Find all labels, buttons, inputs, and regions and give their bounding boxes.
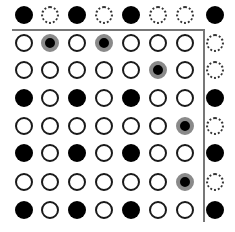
solid-outline-dot-icon [149, 201, 167, 219]
solid-outline-dot-icon [95, 173, 113, 191]
solid-outline-dot-icon [68, 173, 86, 191]
filled-black-dot-icon [206, 6, 224, 24]
solid-outline-dot-icon [149, 117, 167, 135]
solid-outline-dot-icon [149, 173, 167, 191]
filled-black-dot-icon [122, 89, 140, 107]
solid-outline-dot-icon [95, 144, 113, 162]
solid-outline-dot-icon [95, 89, 113, 107]
gray-ringed-black-dot-icon [95, 34, 113, 52]
solid-outline-dot-icon [149, 34, 167, 52]
solid-outline-dot-icon [149, 144, 167, 162]
solid-outline-dot-icon [41, 201, 59, 219]
dashed-outline-dot-icon [206, 34, 224, 52]
gray-ringed-black-dot-icon [176, 173, 194, 191]
solid-outline-dot-icon [41, 144, 59, 162]
gray-ringed-black-dot-icon [176, 117, 194, 135]
dashed-outline-dot-icon [206, 173, 224, 191]
filled-black-dot-icon [206, 144, 224, 162]
filled-black-dot-icon [15, 201, 33, 219]
dashed-outline-dot-icon [206, 117, 224, 135]
filled-black-dot-icon [68, 6, 86, 24]
horizontal-separator [12, 29, 204, 31]
filled-black-dot-icon [122, 201, 140, 219]
solid-outline-dot-icon [176, 201, 194, 219]
filled-black-dot-icon [15, 144, 33, 162]
solid-outline-dot-icon [41, 117, 59, 135]
dot-grid-diagram [0, 0, 235, 232]
filled-black-dot-icon [15, 6, 33, 24]
solid-outline-dot-icon [68, 34, 86, 52]
solid-outline-dot-icon [68, 61, 86, 79]
solid-outline-dot-icon [176, 89, 194, 107]
filled-black-dot-icon [206, 201, 224, 219]
dashed-outline-dot-icon [176, 6, 194, 24]
solid-outline-dot-icon [176, 61, 194, 79]
vertical-separator [203, 29, 205, 222]
filled-black-dot-icon [68, 201, 86, 219]
dashed-outline-dot-icon [41, 6, 59, 24]
solid-outline-dot-icon [122, 117, 140, 135]
solid-outline-dot-icon [95, 117, 113, 135]
solid-outline-dot-icon [176, 144, 194, 162]
solid-outline-dot-icon [122, 173, 140, 191]
solid-outline-dot-icon [15, 173, 33, 191]
solid-outline-dot-icon [176, 34, 194, 52]
solid-outline-dot-icon [68, 117, 86, 135]
filled-black-dot-icon [206, 89, 224, 107]
solid-outline-dot-icon [41, 173, 59, 191]
filled-black-dot-icon [122, 6, 140, 24]
solid-outline-dot-icon [122, 61, 140, 79]
dashed-outline-dot-icon [95, 6, 113, 24]
solid-outline-dot-icon [149, 89, 167, 107]
dashed-outline-dot-icon [149, 6, 167, 24]
gray-ringed-black-dot-icon [149, 61, 167, 79]
solid-outline-dot-icon [15, 34, 33, 52]
solid-outline-dot-icon [41, 61, 59, 79]
filled-black-dot-icon [15, 89, 33, 107]
gray-ringed-black-dot-icon [41, 34, 59, 52]
filled-black-dot-icon [68, 89, 86, 107]
solid-outline-dot-icon [122, 34, 140, 52]
solid-outline-dot-icon [15, 117, 33, 135]
solid-outline-dot-icon [95, 201, 113, 219]
filled-black-dot-icon [122, 144, 140, 162]
dashed-outline-dot-icon [206, 61, 224, 79]
solid-outline-dot-icon [15, 61, 33, 79]
solid-outline-dot-icon [41, 89, 59, 107]
filled-black-dot-icon [68, 144, 86, 162]
solid-outline-dot-icon [95, 61, 113, 79]
